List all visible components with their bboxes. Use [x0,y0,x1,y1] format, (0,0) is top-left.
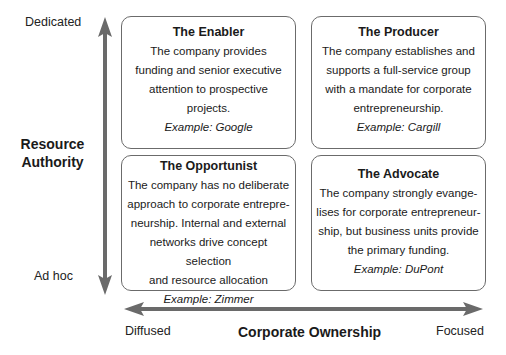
x-axis-right-label: Focused [436,324,484,338]
quadrant-description-line: The company strongly evange- [316,184,481,203]
quadrant-example: Example: Cargill [316,118,481,137]
quadrant-description-line: approach to corporate entrepre- [126,195,291,214]
quadrant-description-line: projects. [126,99,291,118]
quadrant-description-line: The company provides [126,42,291,61]
quadrant-description-line: entrepreneurship. [316,99,481,118]
quadrant-description-line: The company establishes and [316,42,481,61]
y-axis-top-label: Dedicated [25,15,81,29]
quadrant-title: The Producer [316,23,481,42]
quadrant-description-line: supports a full-service group [316,61,481,80]
quadrant-description-line: with a mandate for corporate [316,80,481,99]
quadrant-description-line: the primary funding. [316,241,481,260]
quadrant-description-line: funding and senior executive [126,61,291,80]
quadrant-description-line: ship, but business units provide [316,222,481,241]
y-axis-bottom-label: Ad hoc [34,269,73,283]
y-axis-title-line2: Authority [10,153,95,171]
quadrant-description-line: networks drive concept selection [126,233,291,271]
quadrant-title: The Advocate [316,165,481,184]
quadrant-example: Example: DuPont [316,260,481,279]
quadrant-advocate: The Advocate The company strongly evange… [311,155,486,291]
quadrant-description-line: The company has no deliberate [126,176,291,195]
quadrant-opportunist: The Opportunist The company has no delib… [121,155,296,291]
y-axis-title-line1: Resource [10,135,95,153]
quadrant-description-line: lises for corporate entrepreneur- [316,203,481,222]
quadrant-example: Example: Zimmer [126,290,291,309]
x-axis-title: Corporate Ownership [238,323,381,341]
quadrant-description-line: attention to prospective [126,80,291,99]
quadrant-description-line: and resource allocation [126,271,291,290]
x-axis-left-label: Diffused [125,324,171,338]
quadrant-example: Example: Google [126,118,291,137]
vertical-double-arrow-icon [98,17,112,295]
quadrant-title: The Opportunist [126,157,291,176]
quadrant-producer: The Producer The company establishes and… [311,16,486,149]
quadrant-title: The Enabler [126,23,291,42]
y-axis-title: Resource Authority [10,135,95,171]
quadrant-description-line: neurship. Internal and external [126,214,291,233]
quadrant-enabler: The Enabler The company provides funding… [121,16,296,149]
